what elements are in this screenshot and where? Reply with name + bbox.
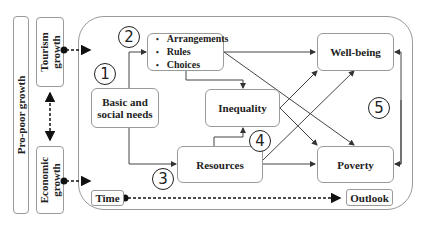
arrangements-item: Arrangements [156, 33, 228, 46]
marker-1: 1 [94, 63, 116, 85]
marker-3: 3 [152, 168, 174, 190]
choices-item: Choices [156, 59, 228, 72]
outlook-box: Outlook [346, 189, 393, 206]
basic-needs-box: Basic and social needs [91, 88, 159, 128]
inequality-box: Inequality [205, 89, 280, 127]
arrangements-box: Arrangements Rules Choices [147, 33, 224, 71]
rules-item: Rules [156, 46, 228, 59]
time-box: Time [91, 190, 124, 206]
marker-5: 5 [368, 97, 390, 119]
marker-2: 2 [118, 26, 140, 48]
marker-4: 4 [249, 130, 271, 152]
resources-box: Resources [177, 146, 263, 183]
wellbeing-box: Well-being [317, 33, 394, 71]
poverty-box: Poverty [317, 146, 394, 183]
arrangements-list: Arrangements Rules Choices [148, 33, 228, 72]
